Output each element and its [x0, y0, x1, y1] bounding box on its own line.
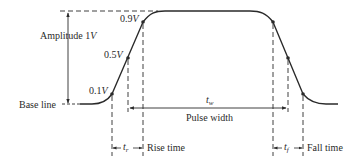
- dot-fall-90: [271, 20, 275, 24]
- dot-fall-10: [301, 92, 305, 96]
- dot-rise-50: [126, 56, 130, 60]
- base-line-label: Base line: [19, 99, 56, 110]
- level-90-label: 0.9V: [120, 13, 141, 24]
- pulse-width-symbol: tw: [206, 94, 214, 107]
- dot-rise-10: [110, 92, 114, 96]
- level-10-label: 0.1V: [89, 85, 110, 96]
- level-50-label: 0.5V: [104, 49, 125, 60]
- rise-time-symbol: tr: [123, 141, 129, 154]
- amplitude-label: Amplitude 1V: [40, 30, 98, 41]
- dot-fall-50: [286, 56, 290, 60]
- pulse-width-label: Pulse width: [186, 112, 233, 123]
- pulse-diagram: Amplitude 1V 0.9V 0.5V 0.1V Base line tw…: [0, 0, 362, 163]
- dot-rise-90: [141, 20, 145, 24]
- fall-time-label: Fall time: [307, 142, 343, 153]
- rise-time-label: Rise time: [147, 142, 186, 153]
